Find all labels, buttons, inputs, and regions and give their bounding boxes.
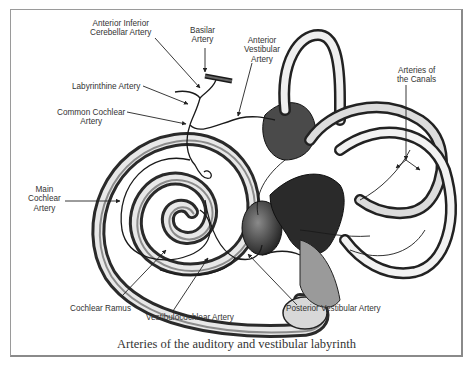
- label-posterior-vestibular-artery: Posterior Vestibular Artery: [286, 304, 381, 313]
- label-cochlear-ramus: Cochlear Ramus: [70, 304, 131, 313]
- label-labyrinthine-artery: Labyrinthine Artery: [72, 82, 140, 91]
- label-main-cochlear-artery: Main Cochlear Artery: [28, 185, 61, 213]
- label-anterior-vestibular-artery: Anterior Vestibular Artery: [244, 36, 280, 64]
- figure-caption: Arteries of the auditory and vestibular …: [10, 337, 463, 352]
- label-arteries-of-the-canals: Arteries of the Canals: [397, 66, 436, 85]
- label-common-cochlear-artery: Common Cochlear Artery: [57, 108, 125, 127]
- label-basilar-artery: Basilar Artery: [190, 26, 215, 45]
- label-anterior-inferior-cerebellar-artery: Anterior Inferior Cerebellar Artery: [90, 19, 151, 38]
- label-vestibulocochlear-artery: Vestibulocochlear Artery: [146, 313, 234, 322]
